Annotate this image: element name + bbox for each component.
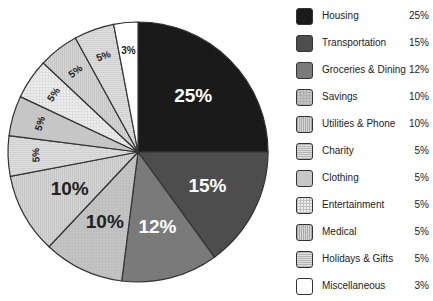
legend-label: Entertainment (322, 199, 384, 210)
slice-label: 12% (138, 216, 176, 237)
legend-swatch-icon (296, 116, 313, 133)
legend-item: Holidays & Gifts5% (296, 251, 433, 278)
legend-item: Transportation15% (296, 35, 433, 62)
pie-slices (8, 22, 268, 282)
slice-label: 15% (188, 175, 226, 196)
legend-swatch-icon (296, 224, 313, 241)
legend-percent: 5% (415, 145, 429, 156)
legend-item: Groceries & Dining12% (296, 62, 433, 89)
legend-percent: 5% (415, 199, 429, 210)
legend-item: Clothing5% (296, 170, 433, 197)
legend-percent: 10% (409, 118, 429, 129)
legend-label: Utilities & Phone (322, 118, 395, 129)
legend-percent: 3% (415, 280, 429, 291)
legend-percent: 12% (409, 64, 429, 75)
legend: Housing25%Transportation15%Groceries & D… (296, 8, 433, 301)
legend-item: Charity5% (296, 143, 433, 170)
legend-percent: 15% (409, 37, 429, 48)
legend-label: Holidays & Gifts (322, 253, 393, 264)
legend-percent: 5% (415, 226, 429, 237)
pie-chart: 25%15%12%10%10%5%5%5%5%5%3% (0, 0, 290, 301)
legend-swatch-icon (296, 143, 313, 160)
legend-label: Groceries & Dining (322, 64, 406, 75)
slice-label: 5% (30, 148, 41, 163)
legend-item: Medical5% (296, 224, 433, 251)
legend-label: Charity (322, 145, 354, 156)
legend-swatch-icon (296, 278, 313, 295)
legend-item: Entertainment5% (296, 197, 433, 224)
legend-label: Savings (322, 91, 358, 102)
legend-item: Miscellaneous3% (296, 278, 433, 301)
legend-label: Medical (322, 226, 356, 237)
legend-item: Utilities & Phone10% (296, 116, 433, 143)
legend-swatch-icon (296, 89, 313, 106)
legend-percent: 10% (409, 91, 429, 102)
legend-label: Transportation (322, 37, 386, 48)
legend-swatch-icon (296, 35, 313, 52)
slice-label: 10% (86, 211, 124, 232)
legend-label: Housing (322, 10, 359, 21)
slice-label: 3% (121, 45, 136, 56)
legend-item: Housing25% (296, 8, 433, 35)
legend-swatch-icon (296, 8, 313, 25)
legend-label: Miscellaneous (322, 280, 385, 291)
legend-item: Savings10% (296, 89, 433, 116)
legend-swatch-icon (296, 62, 313, 79)
slice-label: 25% (174, 85, 212, 106)
legend-swatch-icon (296, 170, 313, 187)
legend-label: Clothing (322, 172, 359, 183)
legend-swatch-icon (296, 197, 313, 214)
legend-percent: 5% (415, 253, 429, 264)
legend-percent: 25% (409, 10, 429, 21)
slice-label: 10% (51, 178, 89, 199)
legend-swatch-icon (296, 251, 313, 268)
legend-percent: 5% (415, 172, 429, 183)
